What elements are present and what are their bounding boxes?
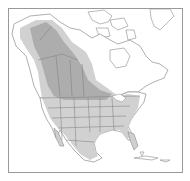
range-map [0, 0, 190, 181]
